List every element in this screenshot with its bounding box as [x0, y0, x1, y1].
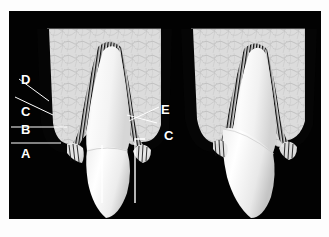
label-a: A: [21, 147, 31, 160]
label-c-right: C: [164, 129, 174, 142]
label-e: E: [161, 103, 170, 116]
figure-root: D C B A E C: [0, 0, 329, 237]
label-d: D: [21, 73, 31, 86]
labels-layer: D C B A E C: [9, 11, 321, 219]
label-b: B: [21, 123, 31, 136]
illustration-plate: D C B A E C: [9, 11, 321, 219]
label-c-left: C: [21, 105, 31, 118]
